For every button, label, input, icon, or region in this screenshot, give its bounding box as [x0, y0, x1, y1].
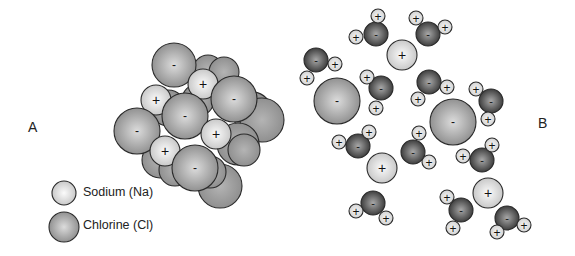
plus-charge-icon: + — [412, 12, 419, 26]
minus-charge-icon: - — [426, 28, 430, 40]
plus-charge-icon: + — [414, 93, 421, 107]
dissolved-chloride-ion: - — [430, 99, 476, 145]
minus-charge-icon: - — [427, 76, 431, 88]
legend-chlorine-swatch — [49, 212, 79, 242]
plus-charge-icon: + — [374, 10, 381, 24]
plus-charge-icon: + — [520, 219, 527, 233]
dissolved-sodium-ion: + — [387, 40, 417, 70]
minus-charge-icon: - — [335, 94, 339, 108]
plus-charge-icon: + — [212, 126, 220, 142]
background-sphere — [228, 134, 260, 166]
lattice-sodium-ion: + — [201, 119, 231, 149]
dissolved-sodium-ion: + — [367, 153, 397, 183]
plus-charge-icon: + — [335, 136, 342, 150]
plus-charge-icon: + — [484, 113, 491, 127]
plus-charge-icon: + — [488, 139, 495, 153]
minus-charge-icon: - — [371, 197, 375, 209]
minus-charge-icon: - — [374, 28, 378, 40]
plus-charge-icon: + — [372, 102, 379, 116]
dissolved-chloride-ion: - — [314, 78, 360, 124]
plus-charge-icon: + — [459, 150, 466, 164]
plus-charge-icon: + — [363, 71, 370, 85]
minus-charge-icon: - — [172, 58, 176, 72]
minus-charge-icon: - — [451, 115, 455, 129]
panel-label-a: A — [28, 119, 37, 135]
minus-charge-icon: - — [356, 140, 360, 152]
plus-charge-icon: + — [472, 83, 479, 97]
minus-charge-icon: - — [183, 109, 187, 123]
plus-charge-icon: + — [441, 21, 448, 35]
plus-charge-icon: + — [398, 47, 406, 63]
plus-charge-icon: + — [352, 31, 359, 45]
plus-charge-icon: + — [352, 205, 359, 219]
minus-charge-icon: - — [232, 92, 236, 106]
minus-charge-icon: - — [459, 204, 463, 216]
plus-charge-icon: + — [443, 81, 450, 95]
minus-charge-icon: - — [314, 54, 318, 66]
plus-charge-icon: + — [199, 76, 207, 92]
minus-charge-icon: - — [489, 95, 493, 107]
water-molecule: -++ — [332, 125, 376, 158]
legend-sodium-swatch — [52, 181, 76, 205]
lattice-chloride-ion: - — [172, 145, 218, 191]
diagram-stage: -+-+--++- --+++ -++-++-++-++-++-++-++-++… — [0, 0, 575, 256]
water-molecule: -++ — [360, 70, 393, 116]
plus-charge-icon: + — [378, 160, 386, 176]
plus-charge-icon: + — [365, 126, 372, 140]
plus-charge-icon: + — [484, 185, 492, 201]
legend-swatches — [49, 181, 79, 242]
minus-charge-icon: - — [480, 154, 484, 166]
plus-charge-icon: + — [493, 226, 500, 240]
plus-charge-icon: + — [443, 191, 450, 205]
minus-charge-icon: - — [379, 82, 383, 94]
panel-label-b: B — [538, 115, 547, 131]
plus-charge-icon: + — [425, 156, 432, 170]
minus-charge-icon: - — [135, 124, 139, 138]
plus-charge-icon: + — [382, 212, 389, 226]
water-molecule: -++ — [440, 190, 473, 236]
water-molecule: -++ — [349, 191, 393, 226]
legend-label-chlorine: Chlorine (Cl) — [83, 218, 153, 232]
water-molecule: -++ — [349, 9, 388, 46]
lattice-chloride-ion: - — [211, 76, 257, 122]
dissolved-sodium-ion: + — [473, 178, 503, 208]
plus-charge-icon: + — [152, 92, 160, 108]
water-molecule: -++ — [490, 206, 531, 240]
legend-label-sodium: Sodium (Na) — [83, 185, 153, 199]
water-molecule: -++ — [401, 126, 436, 170]
plus-charge-icon: + — [449, 222, 456, 236]
plus-charge-icon: + — [331, 58, 338, 72]
minus-charge-icon: - — [505, 212, 509, 224]
plus-charge-icon: + — [161, 143, 169, 159]
minus-charge-icon: - — [193, 161, 197, 175]
minus-charge-icon: - — [411, 146, 415, 158]
water-molecule: -++ — [409, 11, 452, 46]
plus-charge-icon: + — [303, 72, 310, 86]
plus-charge-icon: + — [415, 127, 422, 141]
